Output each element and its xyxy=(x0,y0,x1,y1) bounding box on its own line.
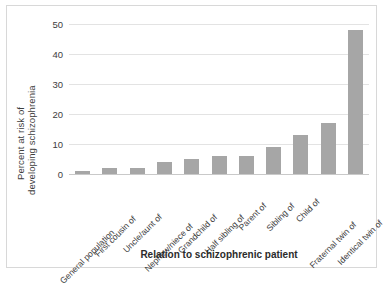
x-axis-line xyxy=(69,174,369,175)
bar-4 xyxy=(184,159,199,174)
bar-5 xyxy=(212,156,227,174)
y-tick-label-20: 20 xyxy=(33,109,63,120)
bar-8 xyxy=(293,135,308,174)
x-tick-label-8: Child of xyxy=(294,197,322,225)
x-axis-title: Relation to schizophrenic patient xyxy=(69,249,369,260)
y-tick-label-40: 40 xyxy=(33,49,63,60)
y-tick-label-30: 30 xyxy=(33,79,63,90)
y-axis-tick-labels: 01020304050 xyxy=(35,24,67,174)
bar-7 xyxy=(266,147,281,174)
y-tick-label-50: 50 xyxy=(33,19,63,30)
bar-series xyxy=(69,24,369,174)
x-axis-tick-labels: General populationFirst cousin ofUncle/a… xyxy=(69,176,379,248)
y-tick-label-0: 0 xyxy=(33,169,63,180)
bar-3 xyxy=(157,162,172,174)
bar-0 xyxy=(75,171,90,174)
y-tick-label-10: 10 xyxy=(33,139,63,150)
chart-frame: Percent at risk of developing schizophre… xyxy=(6,5,377,268)
bar-1 xyxy=(102,168,117,174)
bar-2 xyxy=(130,168,145,174)
bar-10 xyxy=(348,30,363,174)
bar-6 xyxy=(239,156,254,174)
x-tick-label-7: Sibling of xyxy=(264,201,296,233)
bar-9 xyxy=(321,123,336,174)
